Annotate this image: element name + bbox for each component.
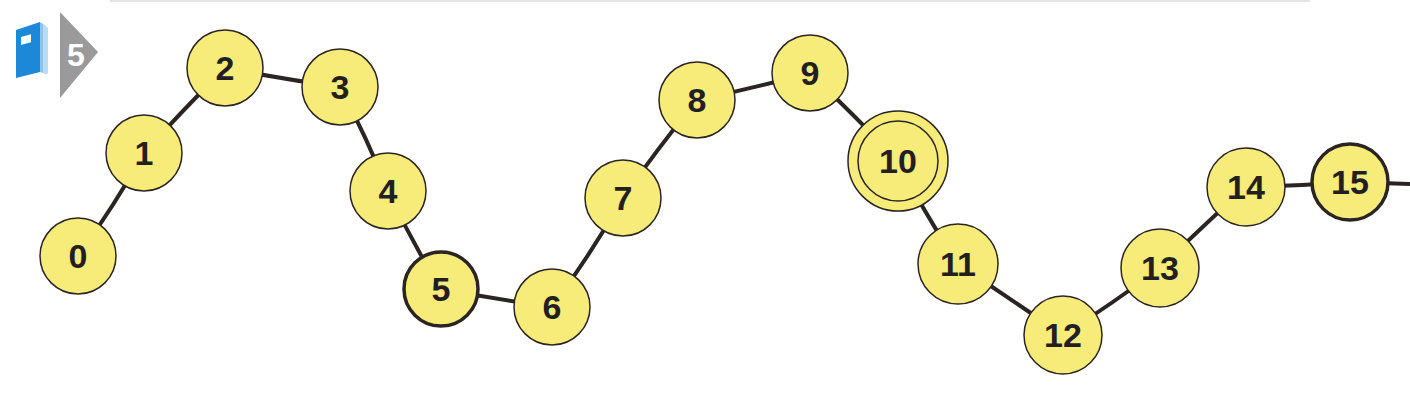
number-node-7: 7: [585, 160, 661, 236]
number-node-13: 13: [1121, 229, 1199, 307]
number-node-14: 14: [1207, 148, 1285, 226]
node-label: 5: [432, 270, 451, 308]
number-node-11: 11: [918, 224, 998, 304]
number-node-10: 10: [848, 111, 948, 211]
node-label: 12: [1044, 316, 1082, 354]
number-node-12: 12: [1024, 296, 1102, 374]
node-label: 3: [331, 68, 350, 106]
node-label: 2: [216, 49, 235, 87]
number-node-1: 1: [106, 115, 182, 191]
number-node-3: 3: [302, 49, 378, 125]
number-node-2: 2: [187, 30, 263, 106]
number-node-15: 15: [1312, 144, 1388, 220]
node-label: 8: [688, 81, 707, 119]
node-label: 11: [940, 245, 976, 283]
path-nodes: 0123456789101112131415: [40, 30, 1388, 374]
node-label: 0: [69, 237, 88, 275]
node-label: 1: [135, 134, 154, 172]
node-label: 14: [1227, 168, 1265, 206]
number-node-6: 6: [514, 269, 590, 345]
number-path: 0123456789101112131415: [0, 0, 1410, 416]
node-label: 13: [1141, 249, 1179, 287]
node-label: 6: [543, 288, 562, 326]
number-node-4: 4: [350, 153, 426, 229]
node-label: 10: [879, 142, 917, 180]
number-node-5: 5: [404, 252, 478, 326]
number-path-diagram: 5 0123456789101112131415: [0, 0, 1410, 416]
node-label: 9: [801, 54, 820, 92]
node-label: 7: [614, 179, 633, 217]
number-node-8: 8: [659, 62, 735, 138]
number-node-0: 0: [40, 218, 116, 294]
node-label: 15: [1331, 163, 1369, 201]
number-node-9: 9: [772, 35, 848, 111]
node-label: 4: [379, 172, 398, 210]
